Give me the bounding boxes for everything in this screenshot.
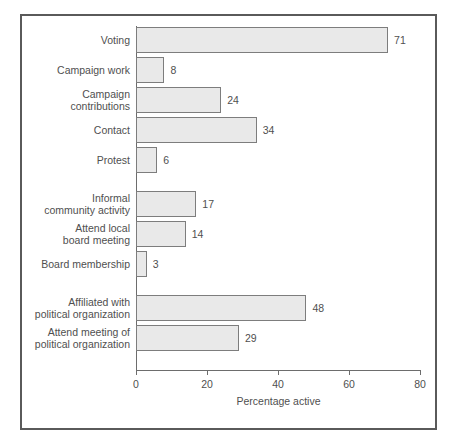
x-axis-tick-label: 60 (334, 378, 364, 390)
category-label: Voting (10, 34, 130, 46)
bar-value-label: 29 (245, 333, 257, 344)
x-axis-tick-label: 80 (405, 378, 435, 390)
bar (136, 295, 306, 321)
bar (136, 147, 157, 173)
x-axis-tick-label: 0 (121, 378, 151, 390)
bar-chart-figure: Percentage active Voting71Campaign work8… (0, 0, 454, 445)
bar-value-label: 48 (312, 303, 324, 314)
category-label: Campaign contributions (10, 88, 130, 112)
bar-value-label: 24 (227, 95, 239, 106)
x-axis-title: Percentage active (136, 395, 421, 407)
x-axis-tick (207, 370, 208, 375)
category-label: Board membership (10, 258, 130, 270)
x-axis-tick (136, 370, 137, 375)
category-label: Contact (10, 124, 130, 136)
bar-value-label: 17 (202, 199, 214, 210)
bar (136, 191, 196, 217)
x-axis-tick (349, 370, 350, 375)
bar-value-label: 71 (394, 35, 406, 46)
bar (136, 325, 239, 351)
x-axis-tick-label: 40 (263, 378, 293, 390)
category-label: Attend meeting of political organization (10, 326, 130, 350)
bar-value-label: 3 (153, 259, 159, 270)
bar-value-label: 8 (170, 65, 176, 76)
category-label: Affiliated with political organization (10, 296, 130, 320)
bar (136, 27, 388, 53)
category-label: Protest (10, 154, 130, 166)
bar (136, 221, 186, 247)
x-axis-tick (420, 370, 421, 375)
x-axis-tick (278, 370, 279, 375)
category-label: Attend local board meeting (10, 222, 130, 246)
bar-value-label: 34 (263, 125, 275, 136)
category-label: Informal community activity (10, 192, 130, 216)
bar-value-label: 6 (163, 155, 169, 166)
bar (136, 57, 164, 83)
bar-value-label: 14 (192, 229, 204, 240)
bar (136, 251, 147, 277)
x-axis-tick-label: 20 (192, 378, 222, 390)
bar (136, 117, 257, 143)
plot-area: Percentage active Voting71Campaign work8… (0, 0, 454, 445)
bar (136, 87, 221, 113)
category-label: Campaign work (10, 64, 130, 76)
